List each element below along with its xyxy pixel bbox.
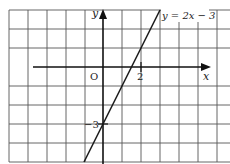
y-axis-label: y: [91, 7, 99, 20]
origin-label: O: [90, 71, 98, 82]
y-axis-arrow-icon: [99, 9, 107, 19]
x-axis-label: x: [203, 70, 210, 83]
x-tick-label-2: 2: [137, 71, 143, 82]
y-tick-label-neg3: −3: [84, 119, 99, 130]
grid: [9, 10, 230, 162]
equation-label: y = 2x − 3: [161, 10, 216, 21]
coordinate-plane: y x O 2 −3 y = 2x − 3: [0, 0, 230, 164]
